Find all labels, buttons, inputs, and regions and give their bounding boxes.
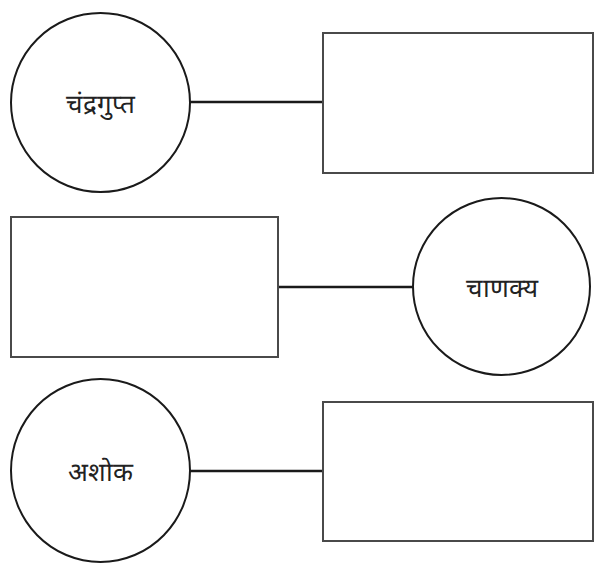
circle-label-1: चंद्रगुप्त — [66, 85, 135, 121]
answer-box-3[interactable] — [322, 401, 594, 542]
circle-node-1: चंद्रगुप्त — [10, 12, 191, 193]
circle-node-2: चाणक्य — [412, 197, 591, 376]
circle-node-3: अशोक — [10, 378, 191, 563]
circle-label-2: चाणक्य — [466, 269, 538, 305]
circle-label-3: अशोक — [68, 453, 133, 489]
answer-box-2[interactable] — [10, 216, 279, 358]
answer-box-1[interactable] — [322, 32, 594, 174]
